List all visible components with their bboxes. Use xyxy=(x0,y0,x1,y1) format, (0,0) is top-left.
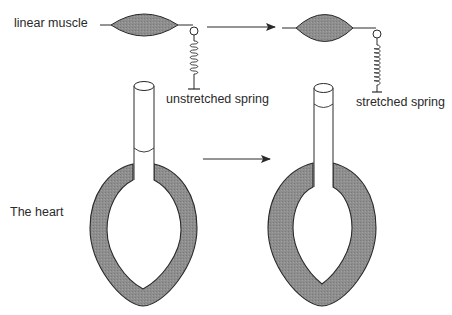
heart-thickened xyxy=(268,84,376,307)
muscle-unstretched xyxy=(100,14,193,36)
diagram-canvas: linear muscle unstretched spring stretch… xyxy=(0,0,452,315)
label-unstretched-spring: unstretched spring xyxy=(166,93,269,106)
muscle-contracted xyxy=(282,15,376,42)
spring-unstretched xyxy=(188,27,200,89)
label-the-heart: The heart xyxy=(10,206,64,219)
label-linear-muscle: linear muscle xyxy=(14,17,88,30)
label-stretched-spring: stretched spring xyxy=(356,96,445,109)
spring-stretched xyxy=(372,30,382,92)
diagram-graphics xyxy=(0,0,452,315)
heart-normal xyxy=(90,82,197,307)
